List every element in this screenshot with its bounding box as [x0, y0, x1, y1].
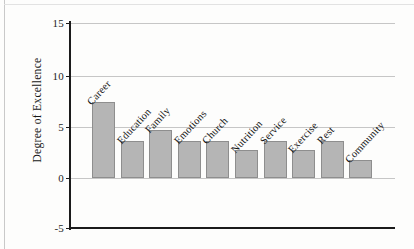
bar-chart-figure: 15 10 5 0 -5 Degree of Excellence Career…	[0, 0, 414, 249]
category-label-community: Community	[343, 119, 386, 165]
bar-exercise	[292, 150, 315, 178]
bar-career	[92, 102, 115, 178]
bars-layer: CareerEducationFamilyEmotionsChurchNutri…	[0, 0, 414, 249]
plot-area: 15 10 5 0 -5 Degree of Excellence Career…	[0, 0, 414, 249]
bar-nutrition	[235, 150, 258, 178]
bar-family	[149, 130, 172, 178]
bar-emotions	[178, 141, 201, 178]
bar-education	[121, 141, 144, 178]
bar-service	[264, 141, 287, 178]
bar-rest	[321, 141, 344, 178]
bar-church	[206, 141, 229, 178]
